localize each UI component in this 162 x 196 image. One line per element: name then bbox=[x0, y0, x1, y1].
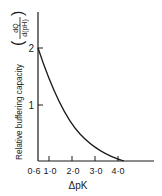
x-tick-label: 0·6 bbox=[27, 166, 40, 176]
buffering-capacity-chart: 2 1 0·6 1·0 2·0 3·0 4·0 ΔpK Relative buf… bbox=[0, 0, 162, 196]
x-axis-label: ΔpK bbox=[69, 180, 88, 191]
y-tick-label: 2 bbox=[28, 43, 34, 54]
right-paren: ) bbox=[9, 11, 26, 16]
fraction-denominator: d(pH) bbox=[21, 19, 29, 37]
x-tick-label: 2·0 bbox=[66, 166, 79, 176]
x-tick-label: 4·0 bbox=[111, 166, 124, 176]
x-tick-label: 1·0 bbox=[43, 166, 56, 176]
data-curve bbox=[38, 48, 124, 161]
y-ticks: 2 1 bbox=[28, 43, 43, 111]
y-axis-label-group: Relative buffering capacity ( dQ d(pH) ) bbox=[9, 11, 29, 160]
left-paren: ( bbox=[9, 40, 26, 46]
y-axis-label: Relative buffering capacity bbox=[15, 63, 24, 160]
x-tick-label: 3·0 bbox=[89, 166, 102, 176]
x-ticks: 0·6 1·0 2·0 3·0 4·0 bbox=[27, 156, 124, 176]
fraction-numerator: dQ bbox=[12, 23, 20, 33]
y-tick-label: 1 bbox=[28, 100, 34, 111]
